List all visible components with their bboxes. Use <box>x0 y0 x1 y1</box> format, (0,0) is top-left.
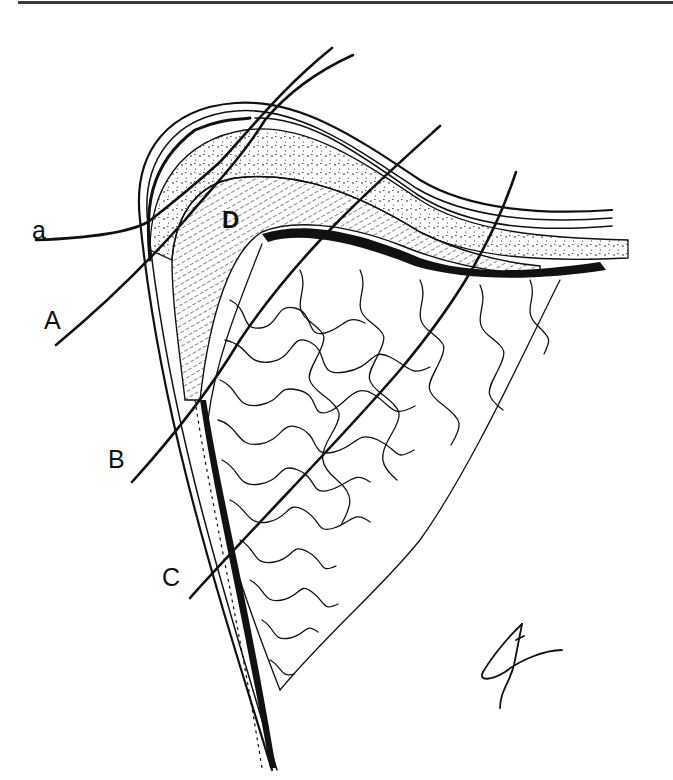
artist-signature <box>482 624 562 708</box>
label-B: B <box>108 447 125 472</box>
label-a: a <box>32 218 46 243</box>
label-A: A <box>44 308 61 333</box>
label-D: D <box>222 208 239 232</box>
anatomy-illustration <box>0 0 673 780</box>
label-C: C <box>162 565 180 590</box>
